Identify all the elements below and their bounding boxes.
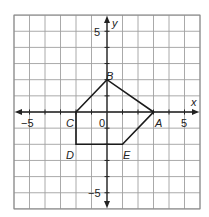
vertex-label-c: C — [66, 117, 74, 129]
y-tick-label-5: 5 — [94, 26, 100, 38]
vertex-label-a: A — [154, 117, 162, 129]
x-axis-label: x — [190, 96, 197, 108]
coordinate-plane: x y −5 5 5 −5 0 A B C D E — [0, 0, 209, 217]
vertex-label-e: E — [123, 149, 131, 161]
y-axis-arrow-down-icon — [104, 201, 110, 208]
vertex-label-b: B — [106, 70, 113, 82]
y-axis-label: y — [111, 17, 119, 29]
x-tick-label-neg5: −5 — [21, 117, 34, 129]
y-axis-arrow-up-icon — [104, 16, 110, 23]
vertex-label-d: D — [66, 149, 74, 161]
x-tick-label-5: 5 — [181, 117, 187, 129]
axes — [15, 16, 199, 208]
origin-label: 0 — [99, 117, 105, 129]
x-axis-arrow-right-icon — [192, 109, 199, 115]
y-tick-label-neg5: −5 — [88, 187, 101, 199]
x-axis-arrow-left-icon — [15, 109, 22, 115]
